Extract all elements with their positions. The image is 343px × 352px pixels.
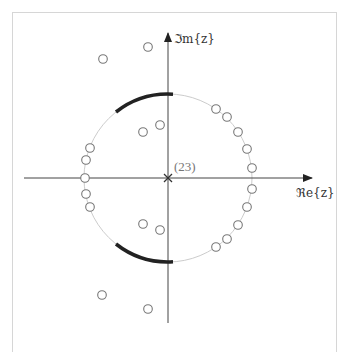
zero-marker bbox=[248, 185, 257, 194]
zero-marker bbox=[99, 55, 108, 64]
zero-marker bbox=[139, 220, 148, 229]
zero-marker bbox=[243, 203, 252, 212]
lower-arc bbox=[116, 244, 173, 262]
zero-marker bbox=[86, 203, 95, 212]
zero-marker bbox=[81, 174, 90, 183]
zero-marker bbox=[212, 105, 221, 114]
zero-marker bbox=[243, 145, 252, 154]
zero-marker bbox=[156, 226, 165, 235]
zero-marker bbox=[144, 305, 153, 314]
zero-marker bbox=[223, 113, 232, 122]
zero-marker bbox=[144, 43, 153, 52]
zero-marker bbox=[212, 243, 221, 252]
zero-marker bbox=[82, 190, 91, 199]
zero-marker bbox=[234, 128, 243, 137]
pole-multiplicity-label: (23) bbox=[174, 159, 196, 174]
upper-arc bbox=[116, 94, 173, 112]
zero-marker bbox=[248, 164, 257, 173]
real-axis-label: ℜe{z} bbox=[296, 186, 335, 200]
zero-marker bbox=[139, 128, 148, 137]
zero-marker bbox=[156, 121, 165, 130]
imaginary-axis-label: ℑm{z} bbox=[174, 32, 215, 46]
zero-marker bbox=[234, 221, 243, 230]
zero-marker bbox=[223, 235, 232, 244]
zero-marker bbox=[82, 156, 91, 165]
zero-marker bbox=[98, 291, 107, 300]
zero-marker bbox=[86, 144, 95, 153]
